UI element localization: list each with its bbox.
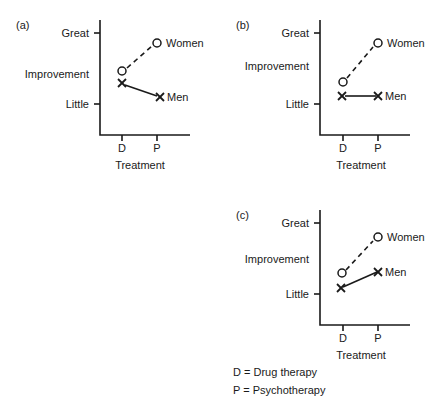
panel-a: (a) Great Little Improvement D P Treatme… [16, 19, 204, 171]
panel-a-xtick-label-d: D [118, 142, 126, 154]
panel-a-marker-women-p [153, 39, 161, 47]
panel-a-xtick-label-p: P [153, 142, 160, 154]
figure-legend: D = Drug therapy P = Psychotherapy [233, 366, 326, 396]
panel-a-label: (a) [16, 19, 29, 31]
panel-c-marker-women-d [338, 269, 346, 277]
panel-b-series-label-women: Women [387, 37, 425, 49]
panel-a-ytick-label-great: Great [61, 27, 89, 39]
panel-c-xtick-label-d: D [339, 332, 347, 344]
panel-c-series-label-men: Men [385, 266, 406, 278]
panel-a-ytick-label-little: Little [66, 98, 89, 110]
panel-c-series-men-line [343, 272, 377, 287]
figure-root: (a) Great Little Improvement D P Treatme… [0, 0, 442, 411]
panel-a-series-label-women: Women [166, 37, 204, 49]
panel-b-ytick-label-little: Little [286, 98, 309, 110]
panel-c-ytick-label-great: Great [281, 217, 309, 229]
panel-b-marker-men-d [338, 92, 346, 100]
panel-c-ytick-label-little: Little [286, 288, 309, 300]
panel-c-label: (c) [236, 209, 249, 221]
legend-line-psychotherapy: P = Psychotherapy [233, 384, 326, 396]
panel-b-marker-women-d [339, 78, 347, 86]
panel-a-y-axis-title: Improvement [25, 68, 89, 80]
panel-b-xtick-label-p: P [374, 142, 381, 154]
panel-c-marker-women-p [374, 233, 382, 241]
panel-b-x-axis-title: Treatment [336, 159, 386, 171]
legend-line-drug-therapy: D = Drug therapy [233, 366, 318, 378]
panel-a-marker-women-d [118, 67, 126, 75]
panel-b-series-women-line [347, 47, 373, 78]
panel-c-marker-men-d [337, 284, 345, 292]
panel-b-label: (b) [236, 19, 249, 31]
panel-a-series-women-line [127, 46, 152, 68]
panel-a-x-axis-title: Treatment [115, 159, 165, 171]
panel-b-marker-women-p [374, 39, 382, 47]
panel-a-marker-men-d [118, 79, 126, 87]
panel-c: (c) Great Little Improvement D P Treatme… [236, 209, 425, 361]
panel-c-y-axis-title: Improvement [245, 253, 309, 265]
panel-c-xtick-label-p: P [374, 332, 381, 344]
panel-b-ytick-label-great: Great [281, 27, 309, 39]
panel-c-series-women-line [346, 241, 373, 270]
panel-c-x-axis-title: Treatment [336, 349, 386, 361]
panel-a-marker-men-p [156, 93, 164, 101]
panel-a-series-label-men: Men [167, 91, 188, 103]
panel-b-series-label-men: Men [385, 90, 406, 102]
panel-c-series-label-women: Women [387, 231, 425, 243]
panel-b: (b) Great Little Improvement D P Treatme… [236, 19, 425, 171]
panel-b-xtick-label-d: D [339, 142, 347, 154]
panel-a-series-men-line [125, 85, 157, 96]
panel-b-y-axis-title: Improvement [245, 60, 309, 72]
